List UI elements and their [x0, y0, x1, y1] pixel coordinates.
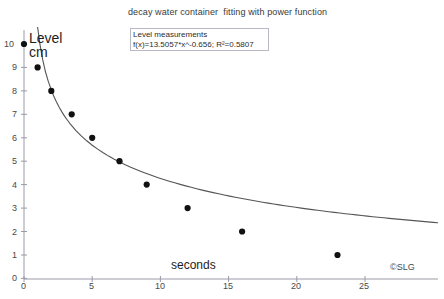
y-tick-label: 2	[12, 227, 17, 237]
y-tick-label: 0	[12, 273, 17, 283]
legend-series-name: Level measurements	[133, 30, 207, 39]
data-point	[35, 64, 41, 70]
x-axis-label: seconds	[171, 258, 216, 272]
chart-canvas: decay water container fitting with power…	[0, 0, 444, 299]
x-tick-label: 5	[89, 281, 94, 291]
y-tick-label: 7	[12, 109, 17, 119]
data-point	[185, 205, 191, 211]
data-point	[21, 41, 27, 47]
y-tick-label: 6	[12, 133, 17, 143]
data-point	[89, 135, 95, 141]
legend-fit-equation: f(x)=13.5057*x^-0.656; R²=0.5807	[133, 40, 254, 49]
data-point	[48, 88, 54, 94]
x-tick-label: 20	[291, 281, 301, 291]
data-point	[116, 158, 122, 164]
y-tick-label: 8	[12, 86, 17, 96]
y-tick-label: 5	[12, 156, 17, 166]
data-points	[21, 41, 341, 258]
y-tick-label: 9	[12, 62, 17, 72]
x-tick-label: 10	[155, 281, 165, 291]
y-tick-label: 3	[12, 203, 17, 213]
x-tick-label: 15	[223, 281, 233, 291]
watermark-label: ©SLG	[390, 262, 415, 272]
data-point	[69, 111, 75, 117]
y-tick-label: 1	[12, 250, 17, 260]
data-point	[239, 228, 245, 234]
y-tick-label: 4	[12, 180, 17, 190]
data-point	[334, 252, 340, 258]
y-axis-label-unit: cm	[29, 44, 48, 60]
x-tick-label: 25	[359, 281, 369, 291]
data-point	[144, 182, 150, 188]
x-tick-label: 0	[21, 281, 26, 291]
y-tick-label: 10	[4, 39, 14, 49]
fit-curve	[38, 27, 438, 223]
